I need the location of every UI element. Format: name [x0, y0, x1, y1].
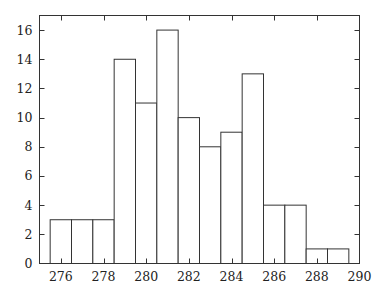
histogram-bar: [72, 220, 93, 264]
y-tick-label: 16: [17, 23, 33, 38]
x-tick-label: 282: [177, 269, 201, 284]
histogram-bar: [157, 30, 178, 263]
histogram-bar: [178, 118, 199, 264]
y-tick-label: 2: [25, 227, 33, 242]
x-tick-label: 288: [305, 269, 329, 284]
y-tick-label: 4: [25, 198, 33, 213]
y-tick-label: 14: [17, 52, 33, 67]
x-tick-label: 276: [49, 269, 73, 284]
y-tick-label: 6: [25, 168, 33, 183]
y-tick-label: 12: [17, 81, 33, 96]
histogram-bar: [136, 103, 157, 263]
histogram-chart: 276278280282284286288290 0246810121416: [0, 0, 388, 300]
histogram-bar: [306, 249, 327, 264]
y-tick-label: 0: [25, 256, 33, 271]
histogram-bar: [264, 205, 285, 263]
x-tick-label: 286: [262, 269, 286, 284]
x-tick-label: 278: [92, 269, 116, 284]
histogram-bar: [200, 147, 221, 264]
y-tick-label: 8: [25, 139, 33, 154]
x-tick-label: 290: [348, 269, 372, 284]
histogram-bar: [221, 132, 242, 263]
histogram-bar: [242, 74, 263, 264]
histogram-bar: [285, 205, 306, 263]
histogram-bars: [50, 30, 349, 263]
histogram-bar: [93, 220, 114, 264]
x-tick-label: 280: [134, 269, 158, 284]
histogram-bar: [328, 249, 349, 264]
histogram-bar: [50, 220, 71, 264]
y-tick-label: 10: [17, 110, 33, 125]
histogram-bar: [114, 59, 135, 263]
x-tick-label: 284: [220, 269, 244, 284]
